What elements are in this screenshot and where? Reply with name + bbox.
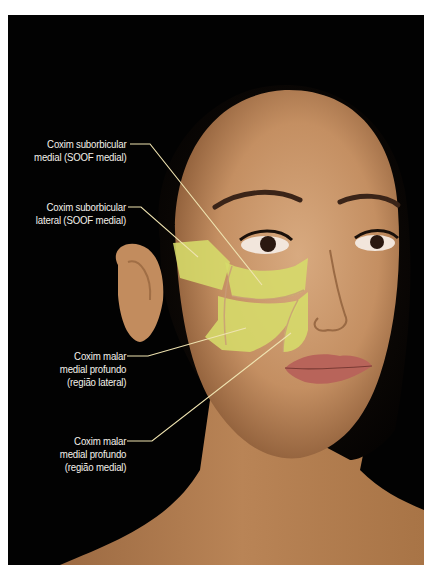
face-illustration xyxy=(8,15,424,565)
label-text: Coxim malar xyxy=(59,350,126,363)
label-text: Coxim suborbicular xyxy=(34,138,126,151)
label-text: Coxim suborbicular xyxy=(36,201,126,214)
label-soof-medial: Coxim suborbicular medial (SOOF medial) xyxy=(34,138,126,164)
label-soof-lateral: Coxim suborbicular lateral (SOOF medial) xyxy=(36,201,126,227)
label-text: medial profundo xyxy=(59,448,126,461)
ear xyxy=(116,244,164,342)
label-text: medial profundo xyxy=(59,363,126,376)
label-text: lateral (SOOF medial) xyxy=(36,214,126,227)
label-text: (região lateral) xyxy=(59,376,126,389)
label-malar-lateral: Coxim malar medial profundo (região late… xyxy=(59,350,126,389)
label-text: medial (SOOF medial) xyxy=(34,151,126,164)
label-malar-medial: Coxim malar medial profundo (região medi… xyxy=(59,435,126,474)
face-photo xyxy=(8,15,424,565)
label-text: (região medial) xyxy=(59,461,126,474)
label-text: Coxim malar xyxy=(59,435,126,448)
